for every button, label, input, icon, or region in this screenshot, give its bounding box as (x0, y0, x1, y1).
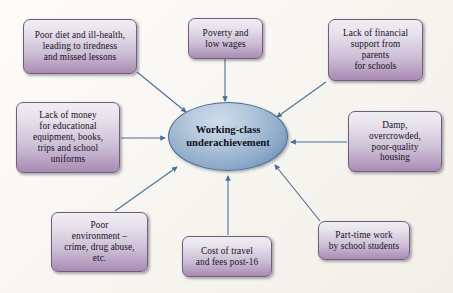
arrow-part-time-work-to-center (275, 165, 320, 221)
arrow-poor-diet-to-center (137, 72, 186, 112)
node-poor-environment[interactable]: Poorenvironment –crime, drug abuse,etc. (51, 212, 148, 272)
node-damp-housing[interactable]: Damp,overcrowded,poor-qualityhousing (348, 111, 442, 172)
diagram-canvas: Poor diet and ill-health,leading to tire… (0, 0, 453, 293)
node-poor-environment-label: Poorenvironment –crime, drug abuse,etc. (55, 220, 144, 264)
node-cost-of-travel-label: Cost of traveland fees post-16 (186, 246, 268, 268)
node-lack-financial-support[interactable]: Lack of financialsupport fromparentsfor … (328, 19, 423, 81)
node-poor-diet[interactable]: Poor diet and ill-health,leading to tire… (23, 19, 137, 74)
node-poor-diet-label: Poor diet and ill-health,leading to tire… (27, 30, 133, 63)
node-lack-of-money[interactable]: Lack of moneyfor educationalequipment, b… (16, 102, 120, 173)
node-poverty-low-wages[interactable]: Poverty andlow wages (188, 18, 263, 59)
node-part-time-work[interactable]: Part-time workby school students (318, 221, 410, 260)
arrow-poor-environment-to-center (115, 167, 177, 211)
node-poverty-low-wages-label: Poverty andlow wages (192, 28, 259, 50)
node-damp-housing-label: Damp,overcrowded,poor-qualityhousing (352, 120, 438, 164)
node-cost-of-travel[interactable]: Cost of traveland fees post-16 (182, 236, 272, 277)
node-lack-of-money-label: Lack of moneyfor educationalequipment, b… (20, 110, 116, 165)
center-node-label: Working-classunderachievement (169, 124, 287, 150)
node-lack-financial-support-label: Lack of financialsupport fromparentsfor … (332, 28, 419, 72)
node-part-time-work-label: Part-time workby school students (322, 230, 406, 252)
center-node-working-class-underachievement[interactable]: Working-classunderachievement (168, 102, 288, 171)
arrow-financial-support-to-center (277, 82, 326, 117)
